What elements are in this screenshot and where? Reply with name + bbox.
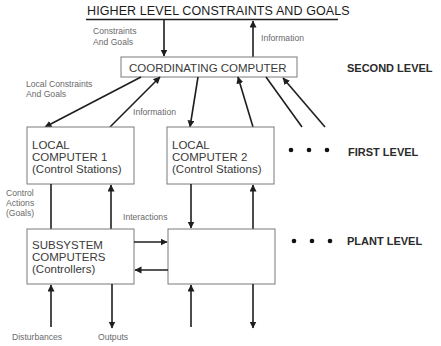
arrow-more-info-up xyxy=(283,78,325,127)
level-first: FIRST LEVEL xyxy=(348,146,419,158)
ellipsis-dot-first-1 xyxy=(289,148,294,153)
label-actions: Actions xyxy=(6,198,34,208)
label-control: Control xyxy=(6,188,34,198)
ellipsis-dot-plant-2 xyxy=(310,239,315,244)
subsystem-line3: (Controllers) xyxy=(32,263,95,275)
label-interactions: Interactions xyxy=(123,212,167,222)
ellipsis-dot-plant-1 xyxy=(292,239,297,244)
local-computer-2-line3: (Control Stations) xyxy=(172,163,262,175)
arrow-local2-constraints-down xyxy=(190,77,198,127)
label-information-top: Information xyxy=(261,33,304,43)
label-outputs: Outputs xyxy=(98,332,128,342)
local-computer-2-line2: COMPUTER 2 xyxy=(172,151,247,163)
line-more-down xyxy=(266,77,302,127)
label-disturbances: Disturbances xyxy=(12,332,62,342)
local-computer-1-line2: COMPUTER 1 xyxy=(32,151,107,163)
hierarchical-control-diagram: HIGHER LEVEL CONSTRAINTS AND GOALS Const… xyxy=(0,0,441,346)
local-computer-2-line1: LOCAL xyxy=(172,139,210,151)
ellipsis-dot-first-2 xyxy=(307,148,312,153)
label-constraints: Constraints xyxy=(93,26,136,36)
label-information-mid: Information xyxy=(133,107,176,117)
level-plant: PLANT LEVEL xyxy=(347,235,422,247)
label-goals: (Goals) xyxy=(6,208,34,218)
label-and-goals: And Goals xyxy=(93,37,133,47)
label-local-and-goals: And Goals xyxy=(26,89,66,99)
local-computer-1-line1: LOCAL xyxy=(32,139,70,151)
arrow-local2-info-up xyxy=(238,77,253,127)
ellipsis-dot-plant-3 xyxy=(328,239,333,244)
coordinating-computer-label: COORDINATING COMPUTER xyxy=(129,62,287,74)
subsystem-line2: COMPUTERS xyxy=(32,251,106,263)
plant-box xyxy=(168,229,275,284)
ellipsis-dot-first-3 xyxy=(325,148,330,153)
local-computer-1-line3: (Control Stations) xyxy=(32,163,122,175)
subsystem-line1: SUBSYSTEM xyxy=(32,239,103,251)
label-local-constraints: Local Constraints xyxy=(26,79,92,89)
level-second: SECOND LEVEL xyxy=(347,62,433,74)
diagram-title: HIGHER LEVEL CONSTRAINTS AND GOALS xyxy=(87,4,350,18)
arrow-local1-info-up xyxy=(110,77,160,127)
